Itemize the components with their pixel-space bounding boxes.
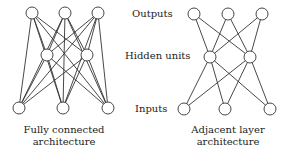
inputs-label: Inputs bbox=[135, 103, 167, 114]
connection-edge bbox=[19, 55, 87, 108]
caption-line: Fully connected bbox=[8, 124, 120, 136]
connection-edge bbox=[32, 13, 108, 108]
adjacent-layer-edges bbox=[184, 14, 270, 109]
connection-edge bbox=[63, 13, 65, 108]
connection-edge bbox=[63, 55, 87, 108]
caption-line: architecture bbox=[172, 136, 284, 148]
adjacent-layer-caption: Adjacent layer architecture bbox=[172, 124, 284, 148]
fully-connected-edges bbox=[19, 13, 108, 108]
outputs-label: Outputs bbox=[132, 8, 173, 19]
input-node bbox=[57, 102, 69, 114]
connection-edge bbox=[250, 57, 270, 109]
connection-edge bbox=[250, 14, 262, 57]
hidden-node bbox=[204, 51, 216, 63]
input-node bbox=[178, 103, 190, 115]
hidden-units-label: Hidden units bbox=[125, 50, 191, 61]
hidden-node bbox=[244, 51, 256, 63]
fully-connected-caption: Fully connected architecture bbox=[8, 124, 120, 148]
connection-edge bbox=[98, 13, 108, 108]
connection-edge bbox=[225, 57, 250, 109]
connection-edge bbox=[184, 57, 210, 109]
caption-line: Adjacent layer bbox=[172, 124, 284, 136]
input-node bbox=[264, 103, 276, 115]
output-node bbox=[256, 8, 268, 20]
connection-edge bbox=[210, 14, 228, 57]
hidden-node bbox=[41, 49, 53, 61]
caption-line: architecture bbox=[8, 136, 120, 148]
connection-edge bbox=[210, 14, 262, 57]
hidden-node bbox=[81, 49, 93, 61]
output-node bbox=[188, 8, 200, 20]
input-node bbox=[13, 102, 25, 114]
adjacent-layer-nodes bbox=[178, 8, 276, 115]
output-node bbox=[222, 8, 234, 20]
input-node bbox=[219, 103, 231, 115]
connection-edge bbox=[32, 13, 87, 55]
output-node bbox=[92, 7, 104, 19]
connection-edge bbox=[228, 14, 250, 57]
output-node bbox=[26, 7, 38, 19]
input-node bbox=[102, 102, 114, 114]
output-node bbox=[59, 7, 71, 19]
